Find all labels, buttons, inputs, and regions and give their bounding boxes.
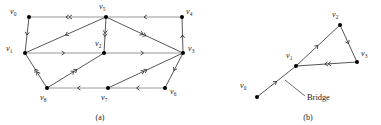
node-v2 <box>338 23 342 27</box>
node-v1 <box>23 51 27 55</box>
node-v1 <box>294 64 298 68</box>
graph-figure-svg: v0v5v4v1v2v3v8v7v6 v0v1v2v3 Bridge (a) (… <box>0 0 381 125</box>
node-label-subscript: 1 <box>10 48 13 54</box>
node-label-v8: v8 <box>40 93 47 103</box>
panel-a-caption: (a) <box>96 113 105 122</box>
node-v7 <box>106 86 110 90</box>
node-label-v0: v0 <box>240 81 247 91</box>
node-v2 <box>102 51 106 55</box>
edge-v7-to-v3 <box>108 53 183 88</box>
node-label-subscript: 0 <box>14 11 17 17</box>
node-v6 <box>163 86 167 90</box>
edge-v8-to-v2 <box>47 53 104 88</box>
figure-root: v0v5v4v1v2v3v8v7v6 v0v1v2v3 Bridge (a) (… <box>0 0 381 125</box>
node-label-v7: v7 <box>101 93 108 103</box>
panel-b-caption: (b) <box>303 113 313 122</box>
node-label-subscript: 4 <box>190 11 193 17</box>
node-label-v3: v3 <box>188 44 195 54</box>
node-v5 <box>104 15 108 19</box>
node-v0 <box>27 15 31 19</box>
node-label-v4: v4 <box>186 7 193 17</box>
node-v3 <box>181 51 185 55</box>
node-label-v1: v1 <box>6 44 13 54</box>
node-label-subscript: 3 <box>365 53 368 59</box>
node-label-subscript: 6 <box>174 91 177 97</box>
node-label-v2: v2 <box>95 39 102 49</box>
bridge-annotation-label: Bridge <box>307 93 330 102</box>
node-v4 <box>180 15 184 19</box>
node-label-v2: v2 <box>332 10 339 20</box>
edge-v5-to-v3 <box>106 17 183 53</box>
node-v0 <box>255 95 259 99</box>
bridge-leader-line <box>285 80 305 96</box>
node-label-subscript: 7 <box>105 97 108 103</box>
panel-b-labels: v0v1v2v3 <box>240 10 368 91</box>
edge-v8-to-v1 <box>25 53 47 88</box>
node-label-v0: v0 <box>10 7 17 17</box>
node-label-subscript: 0 <box>244 85 247 91</box>
node-label-subscript: 5 <box>103 6 106 12</box>
node-v3 <box>355 60 359 64</box>
node-v8 <box>45 86 49 90</box>
panel-b-edges <box>257 25 357 97</box>
node-label-v3: v3 <box>361 49 368 59</box>
node-label-subscript: 2 <box>336 14 339 20</box>
panel-a-nodes <box>23 15 185 90</box>
node-label-subscript: 1 <box>290 55 293 61</box>
node-label-v5: v5 <box>99 2 106 12</box>
node-label-v1: v1 <box>286 51 293 61</box>
annotation-layer: Bridge <box>285 80 330 102</box>
panel-b-nodes <box>255 23 359 99</box>
node-label-v6: v6 <box>170 87 177 97</box>
node-label-subscript: 2 <box>99 43 102 49</box>
node-label-subscript: 3 <box>192 48 195 54</box>
node-label-subscript: 8 <box>44 97 47 103</box>
